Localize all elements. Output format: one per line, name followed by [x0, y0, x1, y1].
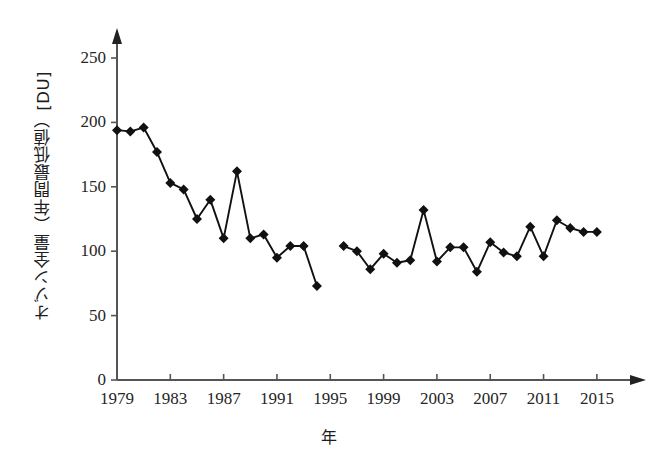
- data-point-marker: [179, 184, 189, 194]
- data-point-marker: [459, 242, 469, 252]
- data-point-marker: [539, 251, 549, 261]
- x-axis-label-text: 年: [321, 428, 337, 447]
- series-line: [117, 128, 317, 286]
- data-point-marker: [259, 229, 269, 239]
- y-axis-tick-label: 0: [62, 370, 106, 390]
- data-point-marker: [525, 222, 535, 232]
- data-point-marker: [299, 241, 309, 251]
- data-point-marker: [125, 126, 135, 136]
- data-point-marker: [219, 233, 229, 243]
- y-axis-tick-label: 150: [62, 177, 106, 197]
- data-point-marker: [165, 178, 175, 188]
- data-point-marker: [112, 125, 122, 135]
- x-axis-tick-label: 1979: [100, 389, 134, 409]
- data-point-marker: [232, 166, 242, 176]
- data-point-marker: [139, 123, 149, 133]
- data-point-marker: [472, 267, 482, 277]
- x-axis-tick-label: 1991: [260, 389, 294, 409]
- x-axis-tick-label: 2015: [580, 389, 614, 409]
- data-point-marker: [552, 215, 562, 225]
- data-point-marker: [565, 223, 575, 233]
- ozone-line-chart: オゾン全量（年間最低値）[DU] 年 050100150200250 19791…: [0, 0, 658, 466]
- data-point-marker: [592, 227, 602, 237]
- data-point-marker: [512, 251, 522, 261]
- data-point-marker: [152, 147, 162, 157]
- y-axis-arrowhead: [112, 28, 122, 44]
- y-axis-tick-label: 250: [62, 48, 106, 68]
- y-axis-tick-label: 100: [62, 241, 106, 261]
- data-point-marker: [419, 205, 429, 215]
- x-axis-tick-label: 2003: [420, 389, 454, 409]
- x-axis-tick-label: 2011: [527, 389, 560, 409]
- x-axis-tick-label: 1983: [153, 389, 187, 409]
- data-point-marker: [312, 281, 322, 291]
- data-series: [112, 123, 602, 291]
- data-point-marker: [579, 227, 589, 237]
- x-axis-tick-label: 1999: [367, 389, 401, 409]
- data-point-marker: [245, 233, 255, 243]
- x-axis-tick-label: 1987: [207, 389, 241, 409]
- y-axis-tick-label: 50: [62, 306, 106, 326]
- data-point-marker: [405, 255, 415, 265]
- y-axis-tick-label: 200: [62, 112, 106, 132]
- x-axis-arrowhead: [630, 375, 646, 385]
- x-axis-tick-label: 2007: [473, 389, 507, 409]
- x-axis-tick-label: 1995: [313, 389, 347, 409]
- x-axis-label: 年: [0, 424, 658, 448]
- data-point-marker: [339, 241, 349, 251]
